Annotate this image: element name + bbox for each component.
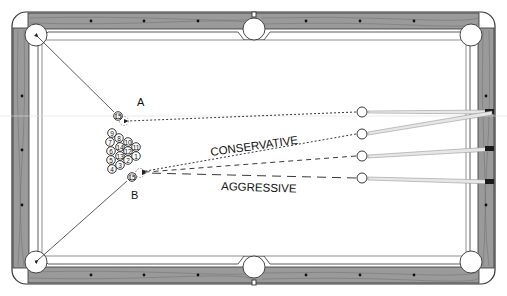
- rack-ball: 3: [116, 161, 125, 170]
- rack-ball: 14: [116, 143, 125, 152]
- pocket-top-middle-notch: [252, 12, 256, 17]
- target-ball-a: 15: [114, 112, 123, 121]
- rack-ball-number: 9: [110, 130, 114, 137]
- rack-ball-number: 12: [124, 148, 132, 155]
- cue-ball: [357, 129, 367, 139]
- diamond-marker: [359, 20, 362, 23]
- rack-ball: 13: [116, 152, 125, 161]
- rack-ball-number: 8: [117, 135, 121, 142]
- pocket-top-middle: [243, 18, 265, 40]
- rack-ball-number: 14: [116, 144, 124, 151]
- pocket-top-right: [460, 24, 482, 46]
- rack-ball: 4: [108, 165, 117, 174]
- rack-ball-number: 3: [118, 162, 122, 169]
- target-ball-a-number: 15: [114, 113, 122, 120]
- rack-ball-number: 10: [124, 139, 132, 146]
- diamond-marker: [143, 274, 146, 277]
- rack-ball-number: 4: [110, 166, 114, 173]
- target-ball-b-number: 15: [128, 174, 136, 181]
- diamond-marker: [21, 204, 24, 207]
- rack-ball-number: 11: [133, 144, 140, 151]
- label-point-b: B: [131, 189, 138, 201]
- label-point-a: A: [137, 96, 145, 108]
- rack-ball-number: 13: [116, 153, 124, 160]
- diamond-marker: [90, 20, 93, 23]
- rack-ball: 12: [124, 147, 133, 156]
- rack-ball: 10: [124, 138, 133, 147]
- cue-ball: [357, 151, 367, 161]
- rack-ball-number: 2: [126, 157, 130, 164]
- diamond-marker: [485, 204, 488, 207]
- rack-ball: 8: [115, 134, 124, 143]
- rack-ball: 2: [124, 156, 133, 165]
- rack-ball: 5: [107, 156, 116, 165]
- rack-ball: 11: [132, 143, 141, 152]
- diamond-marker: [305, 20, 308, 23]
- rack-ball-number: 5: [109, 157, 113, 164]
- diamond-marker: [21, 149, 24, 152]
- rack-ball-number: 7: [108, 139, 112, 146]
- diamond-marker: [485, 95, 488, 98]
- pocket-bottom-middle-notch: [252, 280, 256, 285]
- diamond-marker: [413, 274, 416, 277]
- pocket-bottom-right: [460, 251, 482, 273]
- rack-ball-number: 6: [109, 148, 113, 155]
- diamond-marker: [359, 274, 362, 277]
- target-ball-b: 15: [128, 173, 137, 182]
- diamond-marker: [413, 20, 416, 23]
- rack-ball: 7: [106, 138, 115, 147]
- diamond-marker: [305, 274, 308, 277]
- pocket-bottom-middle: [243, 256, 265, 278]
- rack-ball: 1: [132, 152, 141, 161]
- diamond-marker: [143, 20, 146, 23]
- pocket-bottom-left: [25, 251, 47, 273]
- rack-ball: 6: [107, 147, 116, 156]
- cue-ball: [357, 107, 367, 117]
- diamond-marker: [21, 95, 24, 98]
- diamond-marker: [90, 274, 93, 277]
- cue-ball: [357, 173, 367, 183]
- diamond-marker: [197, 274, 200, 277]
- diamond-marker: [197, 20, 200, 23]
- pool-table-diagram: 9781061412115132143 15 15 A B CONSERVATI…: [0, 0, 507, 296]
- rack-ball-number: 1: [134, 153, 138, 160]
